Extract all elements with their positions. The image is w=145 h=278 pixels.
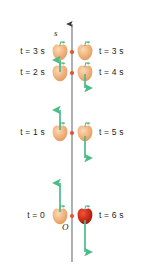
label-right-t6: t = 6 s (99, 210, 143, 220)
projectile-motion-figure: s O t = 3 s t = 2 s t = 1 s t = 0 t = 3 … (0, 0, 145, 278)
axis-label-s: s (54, 28, 58, 38)
label-left-t0: t = 0 (5, 210, 45, 220)
label-left-t1: t = 1 s (5, 127, 45, 137)
label-right-t5: t = 5 s (99, 127, 143, 137)
label-right-t3: t = 3 s (99, 46, 143, 56)
origin-label: O (62, 222, 69, 232)
label-left-t3: t = 3 s (5, 46, 45, 56)
label-right-t4: t = 4 s (99, 67, 143, 77)
label-layer: s O t = 3 s t = 2 s t = 1 s t = 0 t = 3 … (0, 0, 145, 278)
label-left-t2: t = 2 s (5, 67, 45, 77)
